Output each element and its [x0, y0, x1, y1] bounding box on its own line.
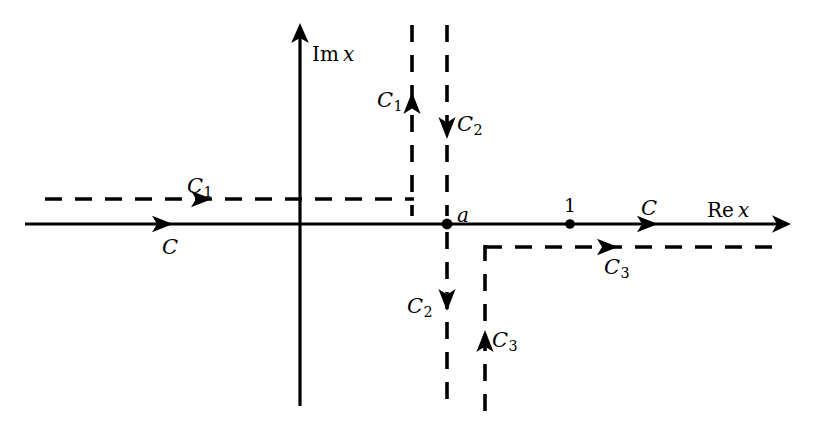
label-im-axis: Imx — [312, 44, 354, 64]
c3-horiz-subscript: 3 — [621, 265, 630, 281]
label-contour-C2-lower: C2 — [407, 296, 433, 319]
c3-vert-subscript: 3 — [509, 338, 518, 354]
re-axis-prefix: Re — [707, 198, 734, 222]
label-contour-C1-vertical: C1 — [377, 90, 403, 113]
c2-lower-subscript: 2 — [424, 304, 433, 320]
c1-horiz-base: C — [187, 174, 203, 198]
c3-horiz-base: C — [604, 255, 620, 279]
label-contour-C-below-axis: C — [162, 237, 178, 258]
point-1-dot — [565, 219, 575, 229]
label-point-a: a — [457, 205, 469, 225]
c1-vert-subscript: 1 — [394, 98, 403, 114]
label-contour-C-axis: C — [641, 198, 657, 219]
label-point-1: 1 — [564, 196, 576, 215]
contour-C1-vertical-arrowhead — [403, 92, 420, 114]
axis-group — [25, 23, 791, 406]
c1-vert-base: C — [377, 88, 393, 112]
contour-C2-group — [438, 25, 455, 411]
label-contour-C1-horizontal: C1 — [187, 176, 213, 199]
c1-horiz-subscript: 1 — [204, 184, 213, 200]
contour-C3-horizontal-arrowhead — [597, 239, 618, 255]
label-re-axis: Rex — [707, 200, 749, 220]
im-axis-prefix: Im — [312, 42, 339, 66]
label-contour-C3-horizontal: C3 — [604, 257, 630, 280]
label-contour-C2-upper: C2 — [457, 114, 483, 137]
c3-vert-base: C — [492, 328, 508, 352]
im-axis-variable: x — [343, 42, 354, 66]
label-contour-C3-vertical: C3 — [492, 330, 518, 353]
c2-upper-base: C — [457, 112, 473, 136]
re-axis-variable: x — [738, 198, 749, 222]
point-a-dot — [442, 219, 453, 230]
contour-C1-group — [45, 25, 421, 216]
c2-lower-base: C — [407, 294, 423, 318]
c2-upper-subscript: 2 — [474, 122, 483, 138]
contour-plot-canvas — [0, 0, 822, 423]
contour-diagram: Imx Rex a 1 C C C1 C1 C2 C2 C3 C3 — [0, 0, 822, 423]
